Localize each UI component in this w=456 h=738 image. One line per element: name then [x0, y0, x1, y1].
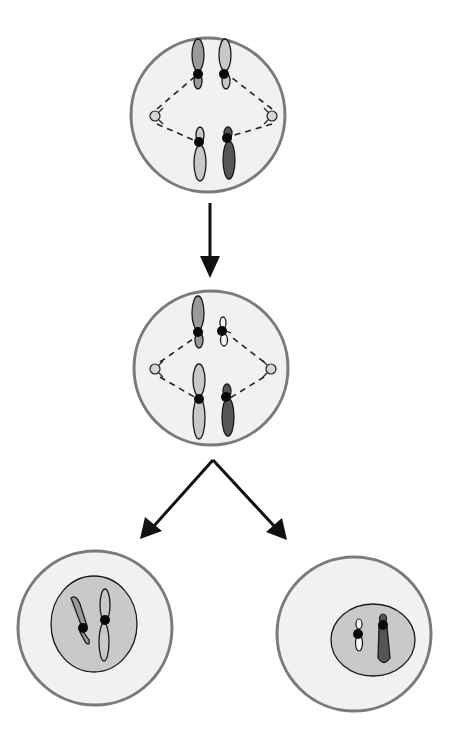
nucleus: [331, 604, 415, 676]
cell-division-diagram: [0, 0, 456, 738]
daughter-cell-right: [277, 557, 431, 711]
daughter-cell-left: [18, 551, 172, 705]
nucleus: [51, 576, 137, 672]
dividing-cell: [134, 291, 288, 445]
parent-cell: [131, 38, 285, 192]
chromosome: [194, 127, 206, 181]
chromosome: [192, 39, 204, 89]
arrow-down: [200, 203, 220, 278]
chromosome: [193, 364, 205, 439]
arrow-split: [153, 460, 275, 527]
